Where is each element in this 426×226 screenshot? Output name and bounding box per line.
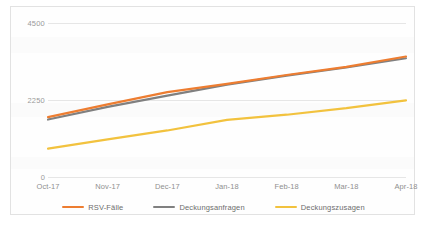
- series-line-deckungsanfragen: [48, 58, 406, 119]
- legend-label: Deckungszusagen: [301, 203, 365, 212]
- chart-legend: RSV-Fälle Deckungsanfragen Deckungszusag…: [11, 199, 416, 215]
- legend-item-deckungsanfragen[interactable]: Deckungsanfragen: [153, 203, 244, 212]
- x-tick-label-apr-18: Apr-18: [394, 182, 417, 191]
- x-axis: Oct-17 Nov-17 Dec-17 Jan-18 Feb-18 Mar-1…: [48, 182, 406, 196]
- legend-swatch-icon: [153, 206, 175, 209]
- y-axis: 4500 2250 0: [19, 23, 45, 177]
- x-tick-label-oct-17: Oct-17: [36, 182, 59, 191]
- x-tick-label-nov-17: Nov-17: [95, 182, 120, 191]
- y-tick-label-4500: 4500: [28, 19, 46, 28]
- x-tick-label-mar-18: Mar-18: [334, 182, 358, 191]
- x-tick-label-feb-18: Feb-18: [274, 182, 298, 191]
- x-tick-label-jan-18: Jan-18: [215, 182, 239, 191]
- line-chart-card: 4500 2250 0 Oct-17 Nov-17 Dec-17 Jan-18 …: [10, 6, 415, 215]
- plot-area: [48, 23, 406, 177]
- legend-label: RSV-Fälle: [88, 203, 123, 212]
- y-tick-label-2250: 2250: [28, 96, 46, 105]
- legend-swatch-icon: [275, 206, 297, 209]
- series-plot: [48, 23, 406, 177]
- legend-label: Deckungsanfragen: [179, 203, 244, 212]
- gridline-0: [48, 177, 406, 178]
- legend-swatch-icon: [62, 206, 84, 209]
- legend-item-deckungszusagen[interactable]: Deckungszusagen: [275, 203, 365, 212]
- x-tick-label-dec-17: Dec-17: [155, 182, 180, 191]
- y-tick-label-0: 0: [41, 173, 45, 182]
- legend-item-rsv-faelle[interactable]: RSV-Fälle: [62, 203, 123, 212]
